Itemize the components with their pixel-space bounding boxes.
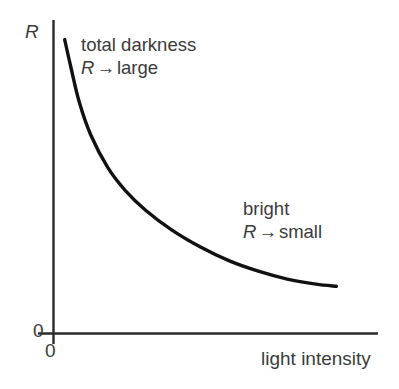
annotation-total-darkness: total darkness R→large — [81, 33, 196, 79]
right-arrow-icon: → — [256, 221, 279, 242]
right-arrow-icon: → — [94, 57, 117, 78]
y-axis-label: R — [25, 21, 39, 43]
annotation-bright-value: small — [279, 221, 322, 242]
resistance-light-intensity-chart: R 0 0 light intensity total darkness R→l… — [0, 0, 399, 389]
annotation-total-darkness-value: large — [117, 57, 158, 78]
annotation-bright-relation: R→small — [243, 220, 322, 243]
annotation-bright-symbol: R — [243, 221, 256, 242]
x-axis-origin-label: 0 — [45, 340, 56, 362]
annotation-total-darkness-title: total darkness — [81, 33, 196, 56]
x-axis-label: light intensity — [261, 348, 371, 370]
annotation-bright-title: bright — [243, 197, 322, 220]
annotation-bright: bright R→small — [243, 197, 322, 243]
annotation-total-darkness-symbol: R — [81, 57, 94, 78]
chart-canvas — [0, 0, 399, 389]
y-axis-origin-label: 0 — [33, 320, 44, 342]
annotation-total-darkness-relation: R→large — [81, 56, 196, 79]
